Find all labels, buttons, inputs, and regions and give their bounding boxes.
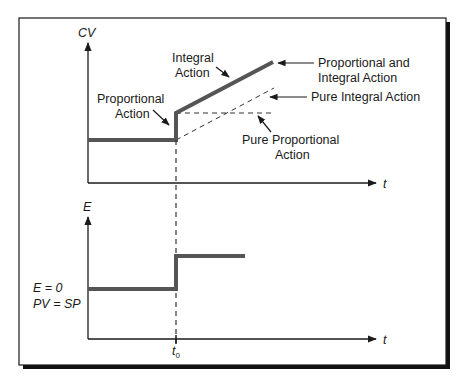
cv-axis-label: CV xyxy=(78,26,97,40)
e-axis-label: E xyxy=(83,200,92,214)
pure-integral-label: Pure Integral Action xyxy=(311,90,420,104)
bottom-t-label: t xyxy=(383,333,387,347)
top-t-label: t xyxy=(383,177,387,191)
pi-control-diagram: CV t Integral Action Proportional Action… xyxy=(0,0,466,381)
